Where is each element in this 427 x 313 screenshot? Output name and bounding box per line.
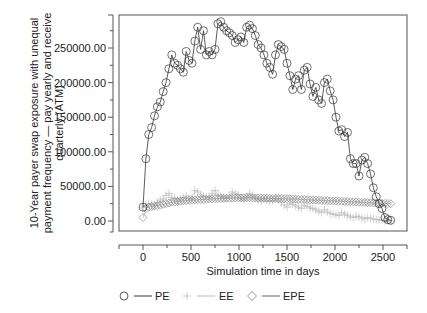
x-tick-label: 0 [140,251,146,263]
x-axis-title: Simulation time in days [206,265,320,277]
legend-label-pe: PE [155,290,170,302]
y-tick-label: 0.00 [85,215,106,227]
y-tick-label: 50000.00 [60,180,106,192]
plus-marker-icon [183,292,191,300]
y-tick-label: 250000.00 [54,42,106,54]
circle-marker-icon [120,292,128,300]
chart-canvas: 0.0050000.00100000.00150000.00200000.002… [0,0,427,313]
x-tick-label: 1500 [275,251,299,263]
legend-item-epe: EPE [248,290,306,302]
x-tick-label: 2500 [371,251,395,263]
y-axis-title-line: payment frequency — pay yearly and recei… [41,13,53,234]
legend-item-pe: PE [120,290,170,302]
y-axis-title-line: quarterly (ATM) [53,85,65,161]
legend-label-epe: EPE [283,290,305,302]
series-layer [139,18,395,225]
x-tick-label: 500 [182,251,200,263]
legend: PE EE EPE [120,290,305,302]
x-tick-label: 1000 [227,251,251,263]
x-axis: 05001000150020002500 [119,245,407,263]
legend-item-ee: EE [183,290,234,302]
diamond-marker-icon [248,292,257,301]
y-axis-title-line: 10-Year payer swap exposure with unequal [28,18,40,229]
data-point-diamond [139,214,147,222]
series-line [143,22,391,221]
x-ticks: 05001000150020002500 [119,245,407,263]
series-pe [139,18,395,225]
x-tick-label: 2000 [323,251,347,263]
legend-label-ee: EE [219,290,234,302]
